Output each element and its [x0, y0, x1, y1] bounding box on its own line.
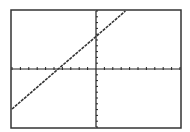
graph-screen — [0, 0, 190, 132]
